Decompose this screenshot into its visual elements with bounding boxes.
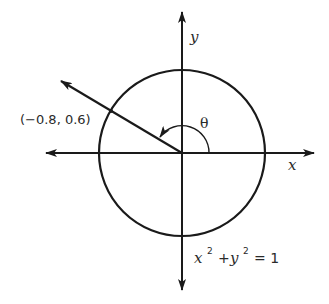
unit-circle-diagram: y x θ (−0.8, 0.6) x 2 + y 2 = 1 (0, 0, 329, 304)
equation-x-exponent: 2 (207, 246, 213, 256)
circle-equation: x 2 + y 2 = 1 (194, 246, 279, 267)
point-label: (−0.8, 0.6) (20, 112, 91, 127)
equation-plus: + (218, 250, 230, 266)
theta-label: θ (200, 115, 208, 131)
equation-y: y (229, 249, 239, 267)
equation-x: x (194, 249, 203, 267)
equation-y-exponent: 2 (243, 246, 249, 256)
equation-rhs: = 1 (254, 250, 279, 266)
point-marker (109, 109, 113, 113)
x-axis-label: x (288, 156, 297, 174)
y-axis-label: y (189, 28, 199, 46)
